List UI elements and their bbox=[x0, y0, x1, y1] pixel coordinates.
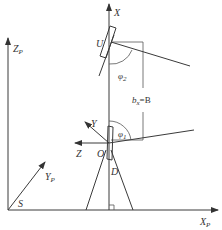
geometry-diagram: X ZP U φ2 bx=B φ1 Y Z O D YP S XP bbox=[0, 0, 222, 230]
sensor-u bbox=[99, 26, 190, 76]
sensor-o bbox=[107, 121, 194, 160]
point-d-label: D bbox=[110, 166, 119, 177]
point-s-label: S bbox=[18, 198, 23, 209]
xp-label: XP bbox=[199, 216, 211, 229]
phi2-label: φ2 bbox=[118, 71, 127, 83]
yp-label: YP bbox=[45, 171, 56, 184]
phi2-arc bbox=[109, 50, 132, 64]
zp-label: ZP bbox=[13, 43, 24, 56]
tripod-leg-left bbox=[86, 150, 106, 210]
sight-line-u bbox=[111, 42, 190, 66]
baseline-bracket bbox=[111, 42, 143, 140]
x-axis-label: X bbox=[113, 7, 121, 18]
yp-axis bbox=[8, 162, 45, 210]
tripod-leg-right bbox=[111, 150, 133, 210]
point-o-label: O bbox=[97, 148, 104, 159]
z-axis-label: Z bbox=[76, 148, 82, 159]
y-axis-label: Y bbox=[91, 118, 98, 129]
y-axis bbox=[85, 122, 109, 143]
phi1-label: φ1 bbox=[118, 129, 126, 141]
bx-label: bx=B bbox=[132, 95, 151, 107]
point-u-label: U bbox=[96, 38, 104, 49]
right-angle-marker bbox=[109, 205, 114, 210]
